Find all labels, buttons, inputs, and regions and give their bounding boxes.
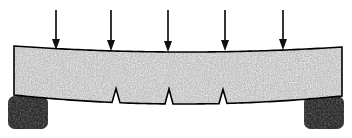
load-arrow-5: [279, 10, 287, 50]
support-right: [304, 96, 344, 129]
load-arrow-1: [52, 10, 60, 50]
load-arrow-5-head-icon: [279, 39, 287, 50]
load-arrow-3-head-icon: [164, 41, 172, 52]
support-left: [8, 96, 48, 129]
beam-load-diagram: Simply supported beam under five point l…: [0, 0, 352, 138]
beam-texture: [0, 0, 352, 138]
diagram-canvas: [0, 0, 352, 138]
load-arrows: [52, 10, 287, 52]
load-arrow-4-head-icon: [221, 40, 229, 51]
load-arrow-3: [164, 10, 172, 52]
beam-body: [0, 0, 352, 138]
load-arrow-2-head-icon: [107, 40, 115, 51]
support-left-grain: [8, 96, 48, 129]
load-arrow-4: [221, 10, 229, 51]
support-right-grain: [304, 96, 344, 129]
load-arrow-2: [107, 10, 115, 51]
